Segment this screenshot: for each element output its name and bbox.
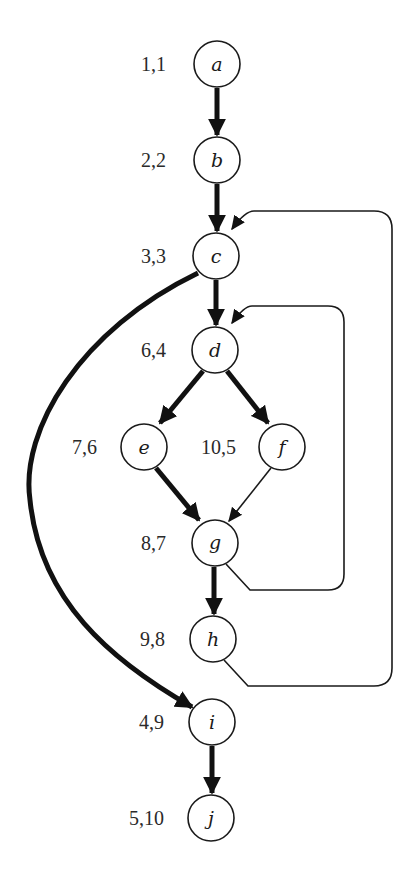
node-label: h — [207, 628, 219, 650]
edge-h-c-backloop — [224, 211, 392, 686]
node-label: a — [211, 53, 222, 75]
node-label: d — [209, 339, 221, 361]
node-h: h 9,8 — [140, 616, 236, 662]
node-label: c — [211, 245, 222, 267]
node-g: g 8,7 — [141, 520, 238, 566]
node-numbering: 9,8 — [140, 628, 165, 650]
node-numbering: 6,4 — [141, 339, 166, 361]
node-numbering: 2,2 — [141, 149, 166, 171]
node-j: j 5,10 — [129, 795, 234, 841]
edge-d-e — [160, 371, 203, 423]
node-numbering: 5,10 — [129, 807, 164, 829]
node-numbering: 8,7 — [141, 532, 166, 554]
node-numbering: 4,9 — [139, 711, 164, 733]
node-label: e — [138, 436, 149, 458]
node-b: b 2,2 — [141, 137, 240, 183]
node-f: f 10,5 — [201, 424, 305, 470]
edge-d-f — [227, 371, 268, 423]
node-numbering: 7,6 — [72, 436, 97, 458]
edge-e-g — [156, 468, 199, 520]
node-numbering: 10,5 — [201, 436, 236, 458]
control-flow-graph: a 1,1 b 2,2 c 3,3 d 6,4 e 7,6 f 10,5 g 8… — [0, 0, 409, 871]
node-e: e 7,6 — [72, 424, 167, 470]
node-label: g — [209, 531, 221, 553]
node-label: i — [209, 711, 215, 733]
node-numbering: 3,3 — [141, 245, 166, 267]
node-d: d 6,4 — [141, 327, 238, 373]
node-numbering: 1,1 — [141, 53, 166, 75]
edge-f-g — [229, 468, 271, 521]
node-label: b — [211, 149, 223, 171]
node-a: a 1,1 — [141, 41, 240, 87]
node-c: c 3,3 — [141, 233, 239, 279]
